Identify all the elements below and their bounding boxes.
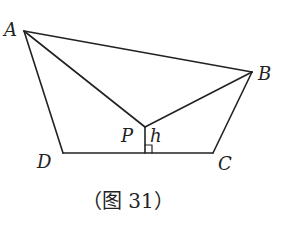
segment-da xyxy=(24,31,63,153)
segment-bp xyxy=(145,72,252,127)
label-h: h xyxy=(150,125,162,146)
figure-caption: （图 31） xyxy=(82,189,174,213)
segment-bc xyxy=(213,72,252,153)
label-p: P xyxy=(120,125,134,146)
segment-ap xyxy=(24,31,145,127)
right-angle-marker xyxy=(145,145,152,153)
label-b: B xyxy=(257,63,271,84)
label-c: C xyxy=(218,153,232,174)
label-a: A xyxy=(2,19,17,40)
segment-ab xyxy=(24,31,252,72)
quadrilateral-diagram: A B C D P h （图 31） xyxy=(0,0,291,235)
label-d: D xyxy=(36,151,52,172)
